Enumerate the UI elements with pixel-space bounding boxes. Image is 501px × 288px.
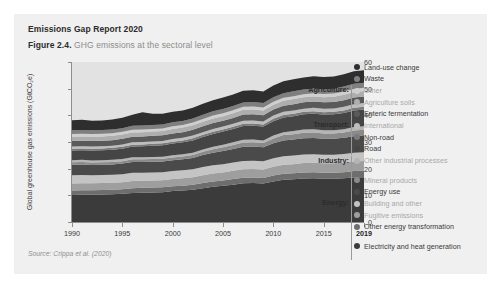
legend-color-dot <box>354 123 360 129</box>
legend-item[interactable]: International <box>354 120 501 131</box>
source-note: Source: Crippa et al. (2020) <box>28 250 112 257</box>
x-axis-tick-label: 1995 <box>114 229 130 238</box>
legend-item-label: International <box>364 120 404 130</box>
legend-item[interactable]: Enteric fermentation <box>354 109 501 120</box>
x-axis-tick-label: 2010 <box>265 229 281 238</box>
legend-item-label: Energy use <box>364 187 400 197</box>
legend-item[interactable]: Other <box>354 85 501 96</box>
legend-color-dot <box>354 243 360 249</box>
x-axis-tick-mark <box>122 223 123 227</box>
figure-card: Emissions Gap Report 2020 Figure 2.4. GH… <box>14 14 487 274</box>
y-axis-label: Global greenhouse gas emissions (GtCO₂e) <box>26 58 37 226</box>
legend-item-label: Non-road <box>364 132 394 142</box>
legend-color-dot <box>354 177 360 183</box>
legend-item-label: Agriculture soils <box>364 97 415 107</box>
legend-item-label: Road <box>364 144 381 154</box>
legend-item[interactable]: Building and other <box>354 198 501 209</box>
legend-item[interactable]: Electricity and heat generation <box>354 241 501 260</box>
legend-color-dot <box>354 64 360 70</box>
legend-color-dot <box>354 189 360 195</box>
figure-caption: Figure 2.4. GHG emissions at the sectora… <box>28 40 213 50</box>
legend-color-dot <box>354 111 360 117</box>
legend-item[interactable]: Agriculture soils <box>354 97 501 108</box>
legend-color-dot <box>354 158 360 164</box>
legend-color-dot <box>354 88 360 94</box>
legend-item[interactable]: Waste <box>354 74 501 85</box>
legend-sector-label: Energy: <box>322 198 349 207</box>
legend-sector-label: Transport: <box>313 120 349 129</box>
figure-caption-text: GHG emissions at the sectoral level <box>74 40 213 50</box>
legend-item[interactable]: Road <box>354 144 501 155</box>
legend-item[interactable]: Land-use change <box>354 62 501 73</box>
legend-sector-bracket <box>351 198 352 260</box>
legend-item[interactable]: Energy use <box>354 187 501 198</box>
legend-item-label: Land-use change <box>364 62 420 72</box>
legend-color-dot <box>354 134 360 140</box>
x-axis-tick-label: 2005 <box>215 229 231 238</box>
figure-number: Figure 2.4. <box>28 40 72 50</box>
legend-color-dot <box>354 224 360 230</box>
legend-item-label: Fugitive emissions <box>364 210 423 220</box>
legend-item-label: Mineral products <box>364 175 417 185</box>
x-axis-tick-mark <box>223 223 224 227</box>
legend-color-dot <box>354 99 360 105</box>
legend-sector-label: Industry: <box>318 156 349 165</box>
report-title: Emissions Gap Report 2020 <box>28 24 143 34</box>
legend-color-dot <box>354 146 360 152</box>
legend-sector-bracket <box>351 120 352 155</box>
legend-color-dot <box>354 76 360 82</box>
legend-item[interactable]: Mineral products <box>354 175 501 186</box>
x-axis-tick-mark <box>72 223 73 227</box>
x-axis-tick-mark <box>273 223 274 227</box>
legend-color-dot <box>354 201 360 207</box>
legend-item-label: Building and other <box>364 198 422 208</box>
x-axis-line <box>71 222 364 223</box>
x-axis-tick-label: 1990 <box>64 229 80 238</box>
x-axis-tick-mark <box>173 223 174 227</box>
legend-item-label: Other <box>364 85 382 95</box>
x-axis-tick-label: 2015 <box>316 229 332 238</box>
x-axis-tick-mark <box>324 223 325 227</box>
legend-item[interactable]: Other industrial processes <box>354 156 501 175</box>
legend-item[interactable]: Non-road <box>354 132 501 143</box>
legend-item-label: Other energy transformation <box>364 222 454 232</box>
legend-color-dot <box>354 212 360 218</box>
legend-item-label: Waste <box>364 74 384 84</box>
legend-sector-bracket <box>351 156 352 198</box>
x-axis-tick-label: 2000 <box>165 229 181 238</box>
y-axis-ticks <box>58 58 72 226</box>
legend-sector-label: Agriculture: <box>308 85 349 94</box>
chart-legend: Land-use changeWasteOtherAgriculture soi… <box>354 62 501 261</box>
legend-sector-bracket <box>351 85 352 120</box>
legend-item[interactable]: Fugitive emissions <box>354 210 501 221</box>
legend-item-label: Enteric fermentation <box>364 109 428 119</box>
legend-item-label: Electricity and heat generation <box>364 241 461 251</box>
legend-item-label: Other industrial processes <box>364 156 448 166</box>
legend-item[interactable]: Other energy transformation <box>354 222 501 241</box>
